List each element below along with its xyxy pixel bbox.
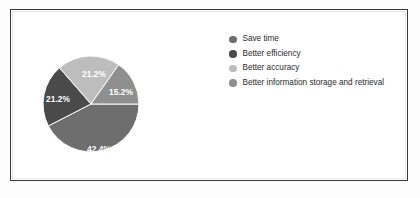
legend-swatch-icon bbox=[229, 79, 237, 87]
legend-item-better-accuracy[interactable]: Better accuracy bbox=[229, 61, 409, 76]
legend-swatch-icon bbox=[229, 50, 237, 58]
legend-item-label: Better accuracy bbox=[243, 64, 300, 72]
legend-item-better-info-storage[interactable]: Better information storage and retrieval bbox=[229, 76, 409, 91]
legend-swatch-icon bbox=[229, 65, 237, 73]
legend-swatch-icon bbox=[229, 36, 237, 44]
pie-label-better-efficiency: 21.2% bbox=[46, 94, 71, 104]
chart-page: 42.4% 21.2% 21.2% 15.2% Save time Better… bbox=[0, 0, 420, 198]
pie-chart: 42.4% 21.2% 21.2% 15.2% bbox=[11, 10, 201, 180]
pie-label-better-accuracy: 21.2% bbox=[82, 69, 107, 79]
chart-legend: Save time Better efficiency Better accur… bbox=[229, 32, 409, 90]
legend-item-save-time[interactable]: Save time bbox=[229, 32, 409, 47]
pie-chart-svg: 42.4% 21.2% 21.2% 15.2% bbox=[11, 10, 201, 180]
legend-item-label: Save time bbox=[243, 35, 279, 43]
chart-frame: 42.4% 21.2% 21.2% 15.2% Save time Better… bbox=[10, 9, 408, 181]
legend-item-label: Better information storage and retrieval bbox=[243, 79, 385, 87]
legend-item-label: Better efficiency bbox=[243, 50, 301, 58]
pie-label-better-info-storage: 15.2% bbox=[109, 87, 134, 97]
legend-item-better-efficiency[interactable]: Better efficiency bbox=[229, 47, 409, 62]
pie-label-save-time: 42.4% bbox=[87, 144, 112, 154]
